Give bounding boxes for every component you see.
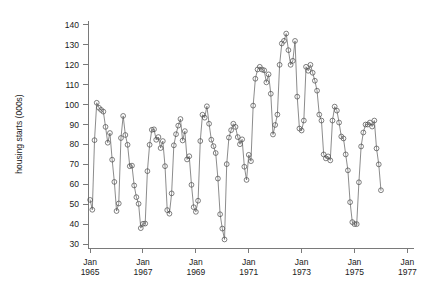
series-markers-housing-starts bbox=[88, 31, 384, 242]
x-tick-label-year-1977: 1977 bbox=[398, 267, 417, 277]
y-tick-label-40: 40 bbox=[70, 219, 80, 229]
x-tick-label-month-1975: Jan bbox=[348, 257, 362, 267]
x-tick-label-month-1969: Jan bbox=[189, 257, 203, 267]
y-tick-label-80: 80 bbox=[70, 139, 80, 149]
y-axis-ticks bbox=[83, 25, 88, 244]
y-axis-title: housing starts (000s) bbox=[14, 94, 24, 174]
x-tick-label-month-1965: Jan bbox=[83, 257, 97, 267]
x-axis-ticks bbox=[90, 248, 407, 253]
y-tick-label-100: 100 bbox=[65, 100, 79, 110]
y-tick-label-60: 60 bbox=[70, 179, 80, 189]
y-tick-label-90: 90 bbox=[70, 120, 80, 130]
x-tick-label-month-1973: Jan bbox=[295, 257, 309, 267]
x-axis bbox=[88, 248, 414, 253]
y-tick-label-140: 140 bbox=[65, 20, 79, 30]
y-tick-labels: 30405060708090100110120130140 bbox=[65, 20, 79, 249]
housing-starts-line-chart: 30405060708090100110120130140 Jan1965Jan… bbox=[0, 0, 432, 291]
x-tick-label-year-1971: 1971 bbox=[239, 267, 258, 277]
x-tick-labels: Jan1965Jan1967Jan1969Jan1971Jan1973Jan19… bbox=[81, 257, 417, 277]
x-tick-label-year-1967: 1967 bbox=[134, 267, 153, 277]
x-tick-label-year-1975: 1975 bbox=[345, 267, 364, 277]
x-tick-label-month-1967: Jan bbox=[136, 257, 150, 267]
y-tick-label-110: 110 bbox=[65, 80, 79, 90]
y-tick-label-30: 30 bbox=[70, 239, 80, 249]
chart-container: 30405060708090100110120130140 Jan1965Jan… bbox=[0, 0, 432, 291]
y-tick-label-120: 120 bbox=[65, 60, 79, 70]
x-tick-label-year-1973: 1973 bbox=[292, 267, 311, 277]
y-tick-label-50: 50 bbox=[70, 199, 80, 209]
x-tick-label-year-1969: 1969 bbox=[186, 267, 205, 277]
y-tick-label-70: 70 bbox=[70, 159, 80, 169]
x-tick-label-month-1977: Jan bbox=[401, 257, 415, 267]
x-tick-label-month-1971: Jan bbox=[242, 257, 256, 267]
y-tick-label-130: 130 bbox=[65, 40, 79, 50]
x-tick-label-year-1965: 1965 bbox=[81, 267, 100, 277]
y-axis bbox=[83, 21, 88, 248]
